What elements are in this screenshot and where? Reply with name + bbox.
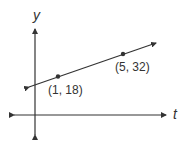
t-axis-label: t — [173, 106, 178, 122]
line-graph: (1, 18) (5, 32) y t — [0, 0, 189, 144]
y-axis-label: y — [32, 7, 41, 23]
point-label-5-32: (5, 32) — [115, 60, 150, 74]
point-1-18 — [56, 74, 60, 78]
point-label-1-18: (1, 18) — [48, 83, 83, 97]
point-5-32 — [121, 52, 125, 56]
